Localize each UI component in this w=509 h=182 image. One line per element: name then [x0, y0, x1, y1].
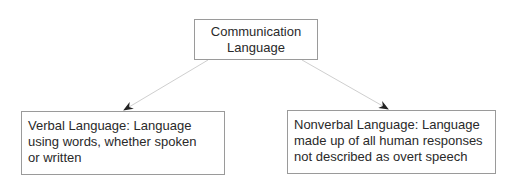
node-label-line: using words, whether spoken: [28, 134, 224, 150]
edge-root-to-verbal: [124, 60, 208, 110]
node-communication-language: Communication Language: [194, 19, 318, 60]
node-label-line: or written: [28, 150, 224, 166]
node-label-line: Verbal Language: Language: [28, 118, 224, 134]
node-label-line: not described as overt speech: [294, 149, 495, 165]
node-label-line: Nonverbal Language: Language: [294, 117, 495, 133]
edge-root-to-nonverbal: [302, 60, 388, 109]
node-label-line: Communication: [195, 24, 317, 40]
node-verbal-language: Verbal Language: Language using words, w…: [21, 111, 225, 175]
node-nonverbal-language: Nonverbal Language: Language made up of …: [287, 110, 496, 174]
node-label-line: Language: [195, 40, 317, 56]
node-label-line: made up of all human responses: [294, 133, 495, 149]
